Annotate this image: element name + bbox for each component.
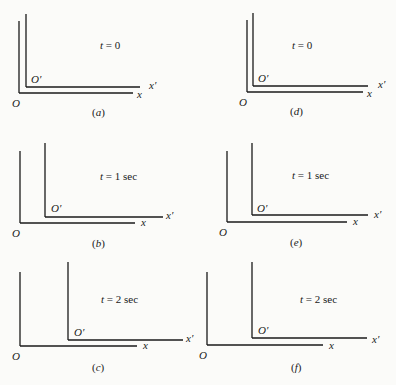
x-axis-label: x [353,216,358,227]
panel-caption: (b) [92,238,105,249]
origin-o-prime-label: O′ [74,327,84,338]
x-prime-axis-label: x′ [166,210,173,221]
time-label: t = 1 sec [292,170,329,181]
origin-o-label: O [12,351,20,362]
x-axis-label: x [367,88,372,99]
panel-caption: (e) [290,237,302,248]
origin-o-label: O [199,350,207,361]
x-prime-axis-label: x′ [374,209,381,220]
x-axis-label: x [141,217,146,228]
panel-caption: (d) [290,106,303,117]
origin-o-prime-label: O′ [258,73,268,84]
origin-o-prime-label: O′ [31,74,41,85]
origin-o-label: O [219,227,227,238]
panel-caption: (a) [92,107,105,118]
time-label: t = 0 [292,40,312,51]
x-axis-label: x [143,340,148,351]
time-label: t = 0 [100,40,120,51]
origin-o-prime-label: O′ [257,203,267,214]
x-prime-axis-label: x′ [149,80,156,91]
x-prime-axis-label: x′ [378,79,385,90]
panel-caption: (c) [92,362,104,373]
x-axis-label: x [137,89,142,100]
time-label: t = 2 sec [300,294,337,305]
time-label: t = 2 sec [101,294,138,305]
axes-drawing [0,0,396,385]
origin-o-label: O [239,97,247,108]
origin-o-prime-label: O′ [51,203,61,214]
origin-o-prime-label: O′ [258,325,268,336]
time-label: t = 1 sec [100,171,137,182]
panel-caption: (f) [291,362,301,373]
x-prime-axis-label: x′ [372,334,379,345]
origin-o-label: O [12,98,20,109]
x-prime-axis-label: x′ [186,333,193,344]
x-axis-label: x [329,340,334,351]
origin-o-label: O [12,228,20,239]
figure-frames-diagram: O O′ x x′ t = 0 (a) O O′ x x′ t = 1 sec … [0,0,396,385]
